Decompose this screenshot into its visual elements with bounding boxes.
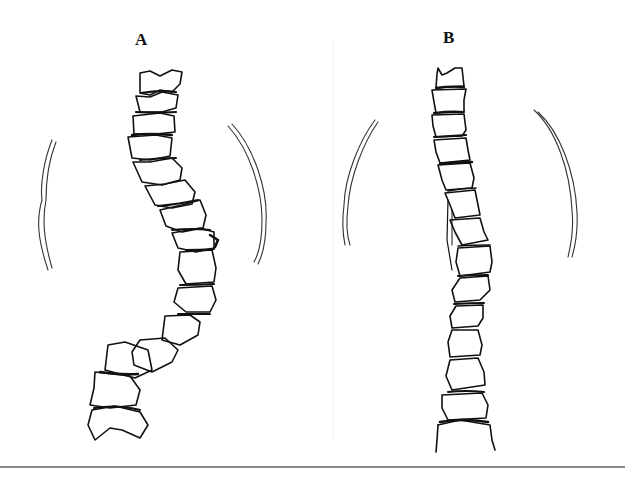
rib-contours-a (39, 124, 267, 270)
spine-a (88, 70, 218, 440)
spine-b (432, 68, 495, 452)
figure-bottom-rule (0, 466, 625, 468)
spine-illustration (0, 0, 625, 478)
rib-contours-b (343, 110, 577, 257)
